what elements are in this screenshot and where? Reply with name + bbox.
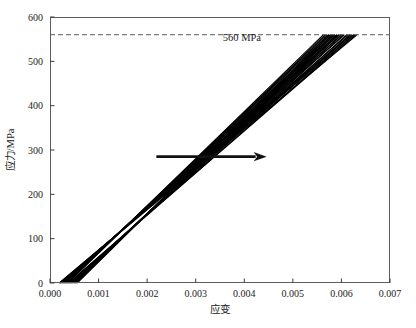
y-tick-label-1: 100 bbox=[28, 233, 43, 244]
x-tick-label-2: 0.002 bbox=[136, 288, 159, 299]
curve-specimen-26 bbox=[71, 35, 343, 283]
y-tick-label-3: 300 bbox=[28, 145, 43, 156]
y-tick-label-0: 0 bbox=[38, 278, 43, 289]
x-tick-label-3: 0.003 bbox=[184, 288, 207, 299]
curve-bundle bbox=[59, 35, 357, 283]
x-axis-title: 应变 bbox=[210, 303, 231, 315]
y-tick-label-5: 500 bbox=[28, 56, 43, 67]
x-tick-label-4: 0.004 bbox=[233, 288, 256, 299]
stress-strain-chart: 0.0000.0010.0020.0030.0040.0050.0060.007… bbox=[0, 0, 416, 328]
x-tick-label-7: 0.007 bbox=[379, 288, 402, 299]
y-axis-title: 应力/MPa bbox=[4, 128, 16, 171]
threshold-label: 560 MPa bbox=[223, 32, 262, 43]
curve-specimen-27 bbox=[75, 35, 335, 283]
chart-annotations: 560 MPa bbox=[223, 32, 262, 43]
curve-specimen-24 bbox=[66, 35, 329, 283]
x-tick-label-5: 0.005 bbox=[282, 288, 305, 299]
curve-specimen-21 bbox=[76, 35, 330, 283]
x-tick-label-6: 0.006 bbox=[330, 288, 353, 299]
x-tick-label-1: 0.001 bbox=[87, 288, 110, 299]
chart-canvas: 0.0000.0010.0020.0030.0040.0050.0060.007… bbox=[0, 0, 416, 328]
y-axis-tick-labels: 0100200300400500600 bbox=[28, 12, 43, 289]
x-tick-label-0: 0.000 bbox=[39, 288, 62, 299]
x-axis-tick-labels: 0.0000.0010.0020.0030.0040.0050.0060.007 bbox=[39, 288, 402, 299]
y-tick-label-6: 600 bbox=[28, 12, 43, 23]
y-tick-label-4: 400 bbox=[28, 100, 43, 111]
curve-specimen-28 bbox=[60, 35, 352, 283]
y-tick-label-2: 200 bbox=[28, 189, 43, 200]
